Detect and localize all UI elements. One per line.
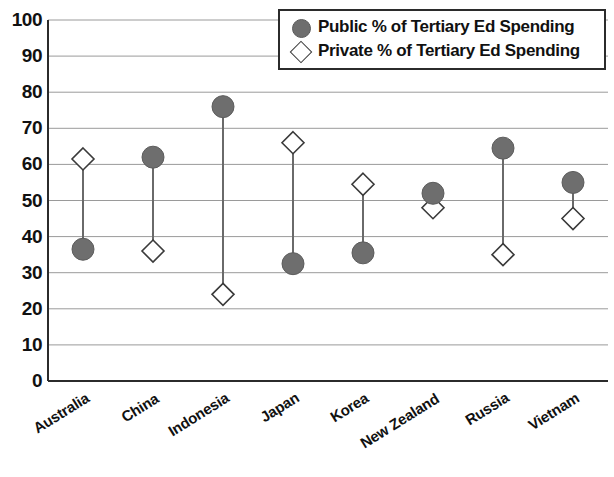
data-point-private xyxy=(282,132,304,154)
legend-item-private: Private % of Tertiary Ed Spending xyxy=(288,39,596,63)
data-point-public xyxy=(352,242,374,264)
legend-label-private: Private % of Tertiary Ed Spending xyxy=(318,41,580,61)
legend-label-public: Public % of Tertiary Ed Spending xyxy=(318,17,574,37)
legend-item-public: Public % of Tertiary Ed Spending xyxy=(288,15,596,39)
filled-circle-icon xyxy=(288,16,318,38)
data-point-public xyxy=(562,171,584,193)
data-point-public xyxy=(282,253,304,275)
data-point-private xyxy=(72,148,94,170)
data-point-public xyxy=(72,238,94,260)
data-point-public xyxy=(212,96,234,118)
data-point-private xyxy=(352,173,374,195)
data-point-public xyxy=(492,137,514,159)
data-point-public xyxy=(422,182,444,204)
open-diamond-icon xyxy=(288,40,318,62)
data-point-private xyxy=(492,244,514,266)
data-point-private xyxy=(212,283,234,305)
chart-legend: Public % of Tertiary Ed Spending Private… xyxy=(278,9,606,70)
plot-area xyxy=(0,0,614,477)
data-point-private xyxy=(142,240,164,262)
data-point-private xyxy=(562,208,584,230)
data-point-public xyxy=(142,146,164,168)
chart-container: 0102030405060708090100 AustraliaChinaInd… xyxy=(0,0,614,477)
